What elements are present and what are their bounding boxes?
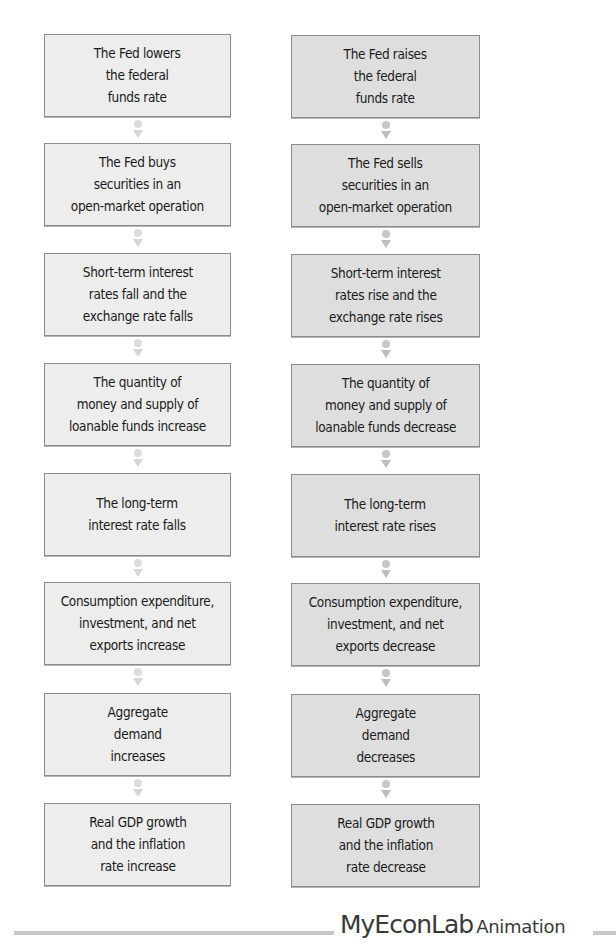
down-arrow-icon: [380, 778, 392, 802]
step-aggregate-demand-decreases: Aggregate demand decreases: [291, 694, 480, 777]
step-text: The quantity of money and supply of loan…: [315, 373, 456, 439]
down-arrow-icon: [380, 667, 392, 691]
step-text: The long-term interest rate falls: [89, 493, 187, 537]
step-text: The Fed buys securities in an open-marke…: [71, 152, 204, 218]
step-text: Aggregate demand decreases: [355, 703, 415, 769]
step-text: Real GDP growth and the inflation rate i…: [89, 812, 186, 878]
step-money-supply-decrease: The quantity of money and supply of loan…: [291, 364, 480, 447]
footer-suffix: Animation: [476, 916, 565, 937]
footer-brand: MyEconLab: [340, 910, 473, 939]
step-long-term-rate-falls: The long-term interest rate falls: [44, 473, 231, 556]
step-expenditure-decrease: Consumption expenditure, investment, and…: [291, 583, 480, 666]
footer-divider-end: [593, 931, 616, 935]
down-arrow-icon: [380, 338, 392, 362]
footer-divider: [14, 931, 334, 935]
down-arrow-icon: [132, 447, 144, 471]
down-arrow-icon: [380, 558, 392, 582]
down-arrow-icon: [380, 448, 392, 472]
step-text: The Fed lowers the federal funds rate: [94, 43, 181, 109]
step-text: Consumption expenditure, investment, and…: [309, 592, 462, 658]
down-arrow-icon: [380, 228, 392, 252]
down-arrow-icon: [132, 118, 144, 142]
step-raise-fed-funds-rate: The Fed raises the federal funds rate: [291, 35, 480, 118]
down-arrow-icon: [380, 119, 392, 143]
step-long-term-rate-rises: The long-term interest rate rises: [291, 474, 480, 557]
step-lower-fed-funds-rate: The Fed lowers the federal funds rate: [44, 34, 231, 117]
step-gdp-inflation-decrease: Real GDP growth and the inflation rate d…: [291, 804, 480, 887]
step-text: The long-term interest rate rises: [335, 494, 436, 538]
step-text: Consumption expenditure, investment, and…: [61, 591, 214, 657]
step-expenditure-increase: Consumption expenditure, investment, and…: [44, 582, 231, 665]
step-aggregate-demand-increases: Aggregate demand increases: [44, 693, 231, 776]
step-short-term-rates-rise: Short-term interest rates rise and the e…: [291, 254, 480, 337]
myeconlab-animation-link[interactable]: MyEconLabAnimation: [340, 910, 565, 939]
down-arrow-icon: [132, 557, 144, 581]
step-gdp-inflation-increase: Real GDP growth and the inflation rate i…: [44, 803, 231, 886]
down-arrow-icon: [132, 777, 144, 801]
step-text: Short-term interest rates rise and the e…: [329, 263, 443, 329]
step-text: Short-term interest rates fall and the e…: [82, 262, 192, 328]
down-arrow-icon: [132, 227, 144, 251]
step-fed-sells-securities: The Fed sells securities in an open-mark…: [291, 144, 480, 227]
down-arrow-icon: [132, 337, 144, 361]
down-arrow-icon: [132, 666, 144, 690]
step-text: The Fed raises the federal funds rate: [344, 44, 427, 110]
step-text: The quantity of money and supply of loan…: [69, 372, 206, 438]
step-short-term-rates-fall: Short-term interest rates fall and the e…: [44, 253, 231, 336]
step-fed-buys-securities: The Fed buys securities in an open-marke…: [44, 143, 231, 226]
step-money-supply-increase: The quantity of money and supply of loan…: [44, 363, 231, 446]
step-text: Real GDP growth and the inflation rate d…: [337, 813, 434, 879]
step-text: The Fed sells securities in an open-mark…: [319, 153, 452, 219]
step-text: Aggregate demand increases: [107, 702, 167, 768]
